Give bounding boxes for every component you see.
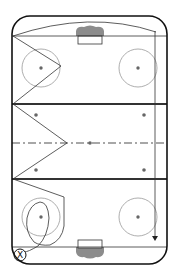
- center-ice-dot: [88, 141, 92, 145]
- top-goal-net: [76, 26, 104, 37]
- faceoff-dot-top-left: [39, 66, 42, 69]
- player-marker: X: [14, 249, 26, 261]
- neutral-dot: [142, 168, 146, 172]
- arrow-head-icon: [152, 236, 158, 241]
- top-goal-crease-box: [78, 36, 102, 44]
- neutral-dot: [142, 113, 146, 117]
- hockey-rink-diagram: X: [0, 0, 177, 276]
- faceoff-dot-bottom-right: [136, 215, 139, 218]
- drill-path-zigzag: [13, 36, 67, 197]
- neutral-dot: [34, 113, 38, 117]
- rink-boards: [12, 16, 167, 264]
- rink-svg: X: [0, 0, 177, 276]
- drill-path-loop: [24, 197, 64, 252]
- bottom-goal-net: [76, 247, 104, 259]
- faceoff-dot-bottom-left: [39, 215, 42, 218]
- neutral-dot: [34, 168, 38, 172]
- faceoff-dot-top-right: [136, 66, 139, 69]
